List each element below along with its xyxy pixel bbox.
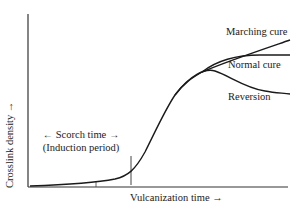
label-normal-cure: Normal cure xyxy=(228,60,281,71)
scorch-time-label: Scorch time xyxy=(56,128,106,141)
scorch-annotation: ← Scorch time → (Induction period) xyxy=(33,128,129,154)
arrow-right-icon: → xyxy=(212,192,223,203)
label-marching-cure: Marching cure xyxy=(226,27,288,38)
x-axis-label-group: Vulcanization time → xyxy=(130,193,223,204)
y-axis-label-group: Crosslink density → xyxy=(4,102,15,188)
cure-curve-diagram: Marching cure Normal cure Reversion ← Sc… xyxy=(0,0,301,210)
induction-period-label: (Induction period) xyxy=(33,141,129,154)
arrow-right-icon: → xyxy=(109,128,119,141)
x-axis-label: Vulcanization time xyxy=(130,192,210,203)
arrow-left-icon: ← xyxy=(43,128,53,141)
label-reversion: Reversion xyxy=(228,92,271,103)
arrow-up-icon: → xyxy=(4,102,15,113)
y-axis-label: Crosslink density xyxy=(4,115,15,188)
